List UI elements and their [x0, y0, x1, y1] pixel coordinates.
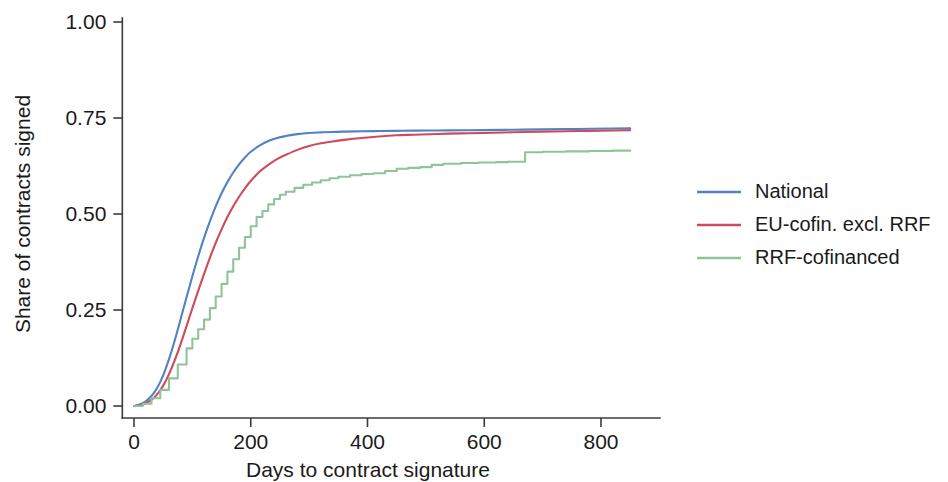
y-tick-label: 0.25 [65, 298, 106, 321]
x-axis-tick-labels: 0200400600800 [128, 430, 618, 453]
legend-label-2: EU-cofin. excl. RRF [755, 213, 931, 235]
x-tick-label: 600 [467, 430, 502, 453]
data-series-group [134, 128, 630, 406]
x-tick-label: 800 [583, 430, 618, 453]
chart-legend: NationalEU-cofin. excl. RRFRRF-cofinance… [697, 180, 931, 268]
y-tick-label: 0.75 [65, 106, 106, 129]
series-line-rrf-cofinanced [134, 151, 630, 406]
x-tick-label: 400 [350, 430, 385, 453]
y-tick-label: 0.50 [65, 202, 106, 225]
x-tick-label: 0 [128, 430, 140, 453]
y-axis-tick-labels: 0.000.250.500.751.00 [65, 10, 106, 417]
x-axis-tick-marks [134, 418, 601, 427]
series-line-eu-cofin-excl-rrf [134, 130, 630, 406]
x-tick-label: 200 [233, 430, 268, 453]
legend-label-3: RRF-cofinanced [755, 246, 900, 268]
chart-canvas: 0.000.250.500.751.00 0200400600800 Share… [0, 0, 948, 482]
legend-label-1: National [755, 180, 828, 202]
x-axis-title: Days to contract signature [246, 458, 490, 481]
y-tick-label: 1.00 [65, 10, 106, 33]
chart-figure: 0.000.250.500.751.00 0200400600800 Share… [0, 0, 948, 482]
y-tick-label: 0.00 [65, 394, 106, 417]
y-axis-tick-marks [113, 22, 122, 406]
plot-axes [113, 18, 660, 427]
series-line-national [134, 128, 630, 406]
y-axis-title: Share of contracts signed [11, 95, 34, 333]
